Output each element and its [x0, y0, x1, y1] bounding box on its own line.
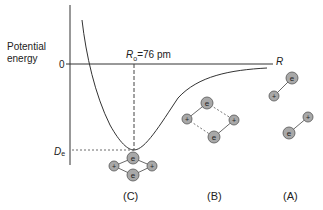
- stage-label-a: (A): [283, 191, 298, 202]
- x-axis-label: R: [276, 57, 283, 67]
- svg-text:+: +: [232, 117, 236, 124]
- stage-label-b: (B): [207, 191, 222, 202]
- zero-tick-label: 0: [59, 60, 65, 70]
- svg-text:+: +: [185, 116, 189, 123]
- svg-text:+: +: [272, 93, 276, 100]
- y-axis-label: Potential energy: [7, 41, 57, 65]
- svg-text:e: e: [290, 74, 295, 83]
- molecule-c: + + e e: [109, 152, 157, 181]
- well-depth-label: De: [54, 147, 65, 157]
- equilibrium-distance-label: Ro=76 pm: [126, 50, 171, 62]
- potential-curve: [82, 20, 267, 150]
- svg-text:e: e: [205, 99, 210, 108]
- svg-text:e: e: [212, 133, 217, 142]
- atoms-b: e + + e: [182, 97, 239, 143]
- atoms-a: e + + e: [269, 72, 313, 139]
- svg-text:e: e: [131, 154, 136, 163]
- svg-text:e: e: [131, 171, 136, 180]
- stage-label-c: (C): [123, 191, 138, 202]
- energy-diagram: + + e e e + + e e + + e: [0, 0, 323, 210]
- svg-text:+: +: [112, 163, 116, 170]
- svg-text:+: +: [306, 114, 310, 121]
- svg-text:e: e: [287, 129, 292, 138]
- svg-text:+: +: [150, 163, 154, 170]
